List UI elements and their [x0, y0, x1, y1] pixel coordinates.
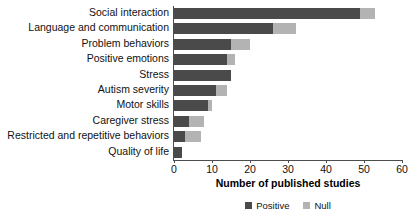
x-axis-tick-label: 60: [396, 163, 408, 175]
x-axis-title: Number of published studies: [174, 177, 402, 189]
bar-row: Problem behaviors: [174, 39, 402, 50]
square-swatch: [245, 202, 252, 209]
bar-segment-null: [189, 116, 204, 127]
bar-segment-positive: [174, 70, 231, 81]
category-label: Restricted and repetitive behaviors: [7, 129, 169, 142]
bar-segment-null: [273, 23, 296, 34]
bar-segment-null: [216, 85, 227, 96]
bar-row: Positive emotions: [174, 54, 402, 65]
bar-segment-null: [208, 100, 212, 111]
plot-area: Social interactionLanguage and communica…: [174, 6, 402, 160]
bar-segment-positive: [174, 8, 360, 19]
bar-segment-null: [231, 39, 250, 50]
x-axis-tick-label: 50: [358, 163, 370, 175]
bar-row: Caregiver stress: [174, 116, 402, 127]
bar-segment-null: [360, 8, 375, 19]
category-label: Autism severity: [98, 83, 169, 96]
bar-row: Motor skills: [174, 100, 402, 111]
bar-segment-positive: [174, 131, 185, 142]
bar-row: Restricted and repetitive behaviors: [174, 131, 402, 142]
bar-segment-positive: [174, 147, 182, 158]
bar-row: Quality of life: [174, 147, 402, 158]
bar-segment-positive: [174, 116, 189, 127]
bar-segment-positive: [174, 54, 227, 65]
category-label: Quality of life: [108, 145, 169, 158]
x-axis-tick-label: 10: [206, 163, 218, 175]
bar-segment-positive: [174, 39, 231, 50]
bar-row: Social interaction: [174, 8, 402, 19]
legend-item: Null: [303, 200, 330, 211]
category-label: Caregiver stress: [93, 114, 169, 127]
bar-segment-positive: [174, 100, 208, 111]
x-axis-tick-label: 0: [171, 163, 177, 175]
x-axis-tick-label: 30: [282, 163, 294, 175]
x-axis-tick-label: 40: [320, 163, 332, 175]
category-label: Social interaction: [89, 6, 169, 19]
chart-legend: PositiveNull: [174, 200, 402, 211]
category-label: Motor skills: [116, 98, 169, 111]
bar-row: Autism severity: [174, 85, 402, 96]
legend-label: Positive: [256, 200, 289, 211]
legend-item: Positive: [245, 200, 289, 211]
x-axis-tick-label: 20: [244, 163, 256, 175]
category-label: Stress: [139, 68, 169, 81]
bar-segment-positive: [174, 85, 216, 96]
stacked-bar-chart: Social interactionLanguage and communica…: [0, 0, 418, 224]
category-label: Positive emotions: [87, 52, 169, 65]
category-label: Language and communication: [28, 21, 169, 34]
square-swatch: [303, 202, 310, 209]
bar-segment-null: [185, 131, 200, 142]
bar-row: Language and communication: [174, 23, 402, 34]
legend-label: Null: [314, 200, 330, 211]
bar-segment-positive: [174, 23, 273, 34]
category-label: Problem behaviors: [81, 37, 169, 50]
bar-segment-null: [227, 54, 235, 65]
bar-row: Stress: [174, 70, 402, 81]
